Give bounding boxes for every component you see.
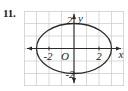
x-axis-arrow-left <box>27 46 32 50</box>
x-tick-label-positive-two: 2 <box>96 50 102 62</box>
coordinate-graph: -2 2 2 -2 O x y <box>24 11 124 86</box>
graph-canvas: -2 2 2 -2 O x y <box>24 11 124 86</box>
exercise-figure: 11. <box>0 0 128 91</box>
y-tick-label-negative-two: -2 <box>65 68 75 80</box>
y-axis-label: y <box>77 12 83 24</box>
origin-label: O <box>61 50 69 62</box>
x-axis-label: x <box>118 48 124 60</box>
y-axis-arrow-up <box>72 14 76 19</box>
y-tick-label-positive-two: 2 <box>67 14 73 26</box>
x-tick-label-negative-two: -2 <box>43 50 53 62</box>
problem-number: 11. <box>3 8 16 19</box>
